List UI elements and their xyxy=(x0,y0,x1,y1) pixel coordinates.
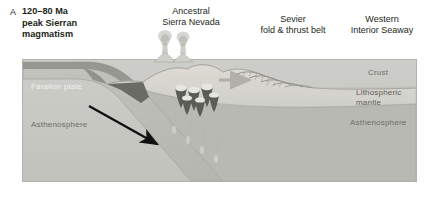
eruption-plume-left xyxy=(158,30,172,54)
volcanoes-and-plumes xyxy=(150,28,220,68)
panel-letter: A xyxy=(10,7,16,17)
label-western-interior-seaway: WesternInterior Seaway xyxy=(338,14,426,36)
label-crust: Crust xyxy=(368,68,388,77)
figure-panel: A 120–80 Mapeak Sierranmagmatism Ancestr… xyxy=(0,0,430,197)
eruption-plume-right xyxy=(177,32,190,55)
label-ancestral-sierra-nevada: AncestralSierra Nevada xyxy=(148,6,234,28)
label-lithospheric-mantle: Lithosphericmantle xyxy=(356,88,417,107)
cross-section-diagram: Farallon plate Asthenosphere Crust Litho… xyxy=(22,59,417,182)
label-asthenosphere-right: Asthenosphere xyxy=(350,118,406,127)
label-asthenosphere-left: Asthenosphere xyxy=(31,120,87,129)
volcano-cones xyxy=(154,52,193,62)
label-sevier-fold-thrust-belt: Sevierfold & thrust belt xyxy=(248,14,338,36)
panel-title: 120–80 Mapeak Sierranmagmatism xyxy=(22,6,114,41)
label-farallon-plate: Farallon plate xyxy=(31,82,82,91)
